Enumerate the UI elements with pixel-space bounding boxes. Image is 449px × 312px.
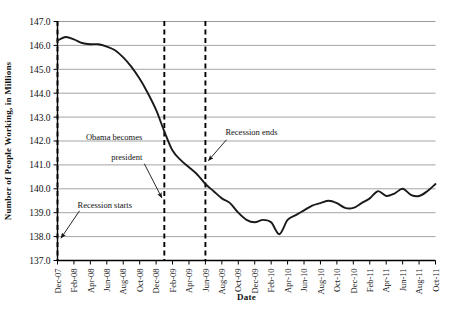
annotation-arrow-recession-ends — [208, 140, 226, 161]
x-tick-label-Aug-08: Aug-08 — [118, 269, 128, 295]
annotation-arrow-obama — [144, 164, 162, 198]
y-axis-title: Number of People Working, in Millions — [3, 61, 13, 220]
x-axis-ticks: Dec-07Feb-08Apr-08Jun-08Aug-08Oct-08Dec-… — [53, 261, 441, 295]
x-tick-label-Oct-09: Oct-09 — [233, 269, 243, 293]
x-tick-label-Feb-09: Feb-09 — [168, 269, 178, 293]
x-tick-label-Apr-11: Apr-11 — [381, 269, 391, 293]
x-tick-label-Oct-11: Oct-11 — [431, 269, 441, 292]
x-tick-label-Oct-10: Oct-10 — [332, 269, 342, 293]
x-tick-label-Feb-10: Feb-10 — [266, 269, 276, 293]
x-tick-label-Jun-08: Jun-08 — [102, 269, 112, 292]
y-axis-ticks: 137.0138.0139.0140.0141.0142.0143.0144.0… — [29, 17, 57, 266]
y-tick-label-147.0: 147.0 — [29, 17, 51, 27]
annotation-arrow-recession-starts — [61, 211, 80, 238]
x-tick-label-Jun-10: Jun-10 — [299, 269, 309, 292]
y-tick-label-137.0: 137.0 — [29, 256, 51, 266]
annotation-label-obama-line1: Obama becomes — [86, 132, 142, 142]
x-tick-label-Aug-09: Aug-09 — [217, 269, 227, 295]
y-tick-label-141.0: 141.0 — [29, 160, 51, 170]
x-tick-label-Feb-11: Feb-11 — [365, 269, 375, 293]
y-tick-label-139.0: 139.0 — [29, 208, 51, 218]
y-tick-label-144.0: 144.0 — [29, 89, 51, 99]
x-tick-label-Jun-09: Jun-09 — [201, 269, 211, 292]
x-tick-label-Aug-11: Aug-11 — [414, 269, 424, 295]
x-tick-label-Feb-08: Feb-08 — [69, 269, 79, 293]
annotation-label-recession-starts: Recession starts — [78, 200, 133, 210]
x-tick-label-Dec-09: Dec-09 — [250, 269, 260, 294]
y-tick-label-140.0: 140.0 — [29, 184, 51, 194]
x-tick-label-Apr-09: Apr-09 — [184, 269, 194, 293]
y-tick-label-146.0: 146.0 — [29, 41, 51, 51]
y-tick-label-143.0: 143.0 — [29, 113, 51, 123]
x-tick-label-Dec-07: Dec-07 — [53, 269, 63, 294]
x-tick-label-Oct-08: Oct-08 — [135, 269, 145, 293]
x-axis-title: Date — [237, 292, 256, 302]
y-tick-label-145.0: 145.0 — [29, 65, 51, 75]
x-tick-label-Aug-10: Aug-10 — [316, 269, 326, 295]
y-tick-label-142.0: 142.0 — [29, 136, 51, 146]
y-tick-label-138.0: 138.0 — [29, 232, 51, 242]
employment-line-chart: 137.0138.0139.0140.0141.0142.0143.0144.0… — [0, 0, 449, 312]
x-tick-label-Dec-08: Dec-08 — [151, 269, 161, 294]
x-tick-label-Apr-10: Apr-10 — [283, 269, 293, 293]
x-tick-label-Jun-11: Jun-11 — [398, 269, 408, 292]
annotation-label-obama-line2: president — [111, 152, 143, 162]
annotation-label-recession-ends: Recession ends — [225, 127, 277, 137]
x-tick-label-Dec-10: Dec-10 — [349, 269, 359, 294]
x-tick-label-Apr-08: Apr-08 — [86, 269, 96, 293]
chart-container: 137.0138.0139.0140.0141.0142.0143.0144.0… — [0, 0, 449, 312]
